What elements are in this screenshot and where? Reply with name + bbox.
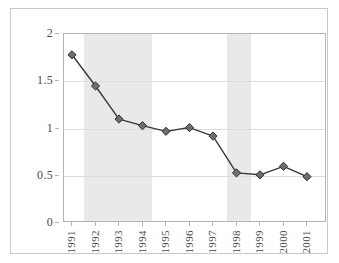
plot-area <box>63 33 326 222</box>
y-tick-mark <box>55 33 59 34</box>
x-tick-mark <box>306 222 307 226</box>
x-tick-mark <box>95 222 96 226</box>
data-point-marker <box>279 162 287 170</box>
data-point-marker <box>185 123 193 131</box>
x-tick-label: 1994 <box>136 230 148 254</box>
x-tick-mark <box>236 222 237 226</box>
x-tick-label: 1992 <box>89 230 101 254</box>
x-tick-label: 1996 <box>183 230 195 254</box>
y-tick-label: 1 <box>47 120 53 135</box>
x-tick-mark <box>283 222 284 226</box>
x-tick-label: 2001 <box>300 230 312 254</box>
data-point-marker <box>162 127 170 135</box>
x-tick-mark <box>259 222 260 226</box>
series-markers <box>68 51 311 181</box>
x-tick-label: 2000 <box>277 230 289 254</box>
x-tick-mark <box>189 222 190 226</box>
y-axis: 00.511.52 <box>21 33 59 222</box>
y-tick-label: 2 <box>47 26 53 41</box>
data-point-marker <box>232 169 240 177</box>
y-tick-mark <box>55 80 59 81</box>
chart-figure: 00.511.52 199119921993199419951996199719… <box>0 0 339 263</box>
x-tick-mark <box>212 222 213 226</box>
y-tick-mark <box>55 222 59 223</box>
y-tick-mark <box>55 175 59 176</box>
series-line <box>72 55 307 177</box>
x-tick-mark <box>142 222 143 226</box>
x-tick-mark <box>71 222 72 226</box>
y-tick-label: 0 <box>47 215 53 230</box>
y-tick-label: 0.5 <box>37 167 53 182</box>
x-tick-label: 1991 <box>65 230 77 254</box>
data-point-marker <box>209 132 217 140</box>
x-tick-label: 1993 <box>112 230 124 254</box>
data-point-marker <box>256 171 264 179</box>
x-tick-label: 1999 <box>253 230 265 254</box>
data-point-marker <box>138 122 146 130</box>
x-tick-label: 1998 <box>230 230 242 254</box>
data-series <box>64 34 326 222</box>
data-point-marker <box>303 173 311 181</box>
x-tick-mark <box>165 222 166 226</box>
x-tick-label: 1995 <box>159 230 171 254</box>
x-tick-mark <box>118 222 119 226</box>
y-tick-label: 1.5 <box>37 73 53 88</box>
x-axis: 1991199219931994199519961997199819992000… <box>63 222 326 263</box>
y-tick-mark <box>55 128 59 129</box>
figure-frame: 00.511.52 199119921993199419951996199719… <box>10 8 328 254</box>
x-tick-label: 1997 <box>206 230 218 254</box>
